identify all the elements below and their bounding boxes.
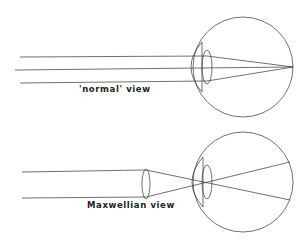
ray-bottom-cross — [146, 162, 290, 197]
maxwellian-view-diagram — [22, 132, 293, 232]
ray-bottom — [22, 197, 146, 198]
ray-middle — [15, 67, 293, 70]
crystalline-lens — [202, 50, 212, 84]
cornea-arc — [192, 157, 203, 207]
external-lens — [142, 169, 150, 199]
maxwellian-view-label: Maxwellian view — [87, 200, 175, 210]
normal-view-label: 'normal' view — [79, 84, 151, 94]
ray-top — [22, 170, 146, 172]
ray-top-cross — [146, 170, 290, 200]
ray-bottom-converge — [207, 67, 293, 81]
normal-view-diagram — [15, 17, 293, 117]
ray-bottom — [20, 81, 207, 83]
ray-top — [20, 56, 207, 57]
cornea-arc — [191, 42, 202, 92]
ray-top-converge — [207, 56, 293, 67]
